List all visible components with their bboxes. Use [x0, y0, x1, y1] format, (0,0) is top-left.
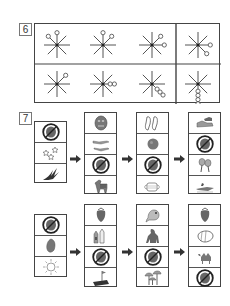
crocodiles-icon [85, 134, 116, 155]
starburst-r2-c3 [139, 71, 165, 97]
stars-icon [35, 143, 66, 164]
right-arrow-icon [70, 242, 81, 250]
circle-marker [161, 93, 165, 97]
starburst-r1-c2 [90, 31, 116, 58]
starburst-r1-c1 [44, 31, 70, 58]
right-arrow-icon [122, 242, 133, 250]
maracas-icon [189, 155, 220, 176]
sneakers-icon [189, 113, 220, 134]
circle-marker [159, 34, 163, 38]
strawberry-icon [189, 205, 220, 226]
crossed-out-elephant-icon [35, 122, 66, 143]
crossed-out-book-icon [85, 155, 116, 176]
crossed-out-cake-icon [189, 134, 220, 155]
zebra-icon [85, 176, 116, 196]
sequence-1-step-1-column [84, 112, 117, 194]
circle-marker [205, 52, 209, 56]
starburst-r1-c4 [185, 32, 212, 58]
circle-marker [196, 93, 200, 97]
sequence-2-step-2-column [136, 204, 169, 287]
starburst-r2-c1 [44, 71, 70, 97]
sequence-2-step-3-column [188, 204, 221, 287]
mask-icon [85, 113, 116, 134]
right-arrow-icon [174, 149, 185, 157]
circle-marker [196, 102, 200, 104]
milk-cartons-icon [85, 226, 116, 247]
swallow-bird-icon [35, 164, 66, 184]
right-arrow-icon [174, 242, 185, 250]
slippers-icon [137, 113, 168, 134]
flag-field-icon [85, 268, 116, 288]
starburst-r2-c2 [90, 71, 117, 97]
circle-marker [162, 43, 166, 47]
crossed-out-pencil-icon [189, 268, 220, 288]
sequence-1-step-3-column [188, 112, 221, 194]
circle-marker [110, 34, 114, 38]
circle-marker [55, 31, 59, 35]
circle-marker [64, 73, 68, 77]
circle-marker [101, 31, 105, 35]
crossed-out-pineapple-icon [35, 215, 66, 236]
starburst-r1-c3 [139, 32, 166, 58]
task-number-6: 6 [19, 23, 32, 36]
circle-marker [108, 82, 112, 86]
seed-icon [35, 236, 66, 257]
ball-icon [137, 134, 168, 155]
crossed-out-hedgehog-icon [137, 247, 168, 268]
strawberry-icon [85, 205, 116, 226]
camel-icon [189, 247, 220, 268]
circle-marker [112, 82, 116, 86]
mushrooms-icon [137, 268, 168, 288]
sequence-2-start-column [34, 214, 67, 277]
right-arrow-icon [122, 149, 133, 157]
circle-marker [208, 43, 212, 47]
task-number-7: 7 [19, 112, 32, 125]
sequence-1-start-column [34, 121, 67, 183]
gorilla-icon [137, 226, 168, 247]
star-pattern-grid [35, 24, 221, 104]
sun-icon [35, 257, 66, 277]
crossed-out-watermelon-icon [137, 155, 168, 176]
circle-marker [196, 98, 200, 102]
circle-marker [196, 89, 200, 93]
frog-icon [137, 205, 168, 226]
crocodile-icon [189, 176, 220, 196]
right-arrow-icon [70, 149, 81, 157]
sequence-2-step-1-column [84, 204, 117, 287]
star-pattern-panel [34, 23, 220, 103]
face-mask-icon [137, 176, 168, 196]
sequence-1-step-2-column [136, 112, 169, 194]
crossed-out-roll-icon [85, 247, 116, 268]
bread-roll-icon [189, 226, 220, 247]
starburst-r2-c4 [185, 71, 211, 104]
circle-marker [46, 34, 50, 38]
